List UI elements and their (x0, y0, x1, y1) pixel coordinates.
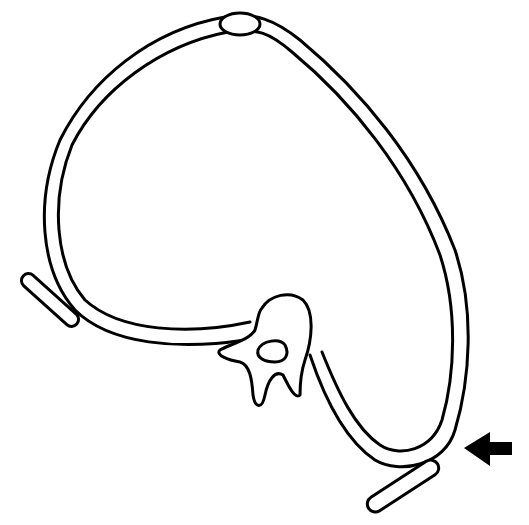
diagram-canvas (0, 0, 529, 525)
vertebral-canal (258, 341, 287, 362)
top-clasp (220, 13, 260, 35)
arrow-left-icon (464, 432, 512, 466)
